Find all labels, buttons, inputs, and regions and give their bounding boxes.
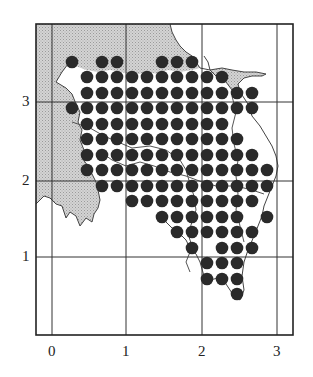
x-tick-label: 0	[48, 344, 56, 359]
occurrence-dot	[246, 195, 259, 208]
river-north	[204, 56, 210, 70]
occurrence-dot	[216, 180, 229, 193]
occurrence-dot	[231, 195, 244, 208]
occurrence-dot	[216, 164, 229, 177]
occurrence-dot	[111, 118, 124, 131]
occurrence-dot	[171, 118, 184, 131]
occurrence-dot	[171, 102, 184, 115]
occurrence-dot	[201, 87, 214, 100]
occurrence-dot	[231, 149, 244, 162]
occurrence-dot	[261, 211, 274, 224]
occurrence-dot	[186, 149, 199, 162]
occurrence-dot	[186, 180, 199, 193]
occurrence-dot	[126, 164, 139, 177]
occurrence-dot	[171, 87, 184, 100]
occurrence-dot	[186, 242, 199, 255]
occurrence-dot	[246, 226, 259, 239]
occurrence-dot	[171, 164, 184, 177]
occurrence-dot	[231, 180, 244, 193]
occurrence-dot	[201, 257, 214, 270]
occurrence-dot	[96, 133, 109, 146]
occurrence-dot	[126, 102, 139, 115]
occurrence-dot	[246, 87, 259, 100]
occurrence-dot	[201, 226, 214, 239]
occurrence-dot	[201, 133, 214, 146]
occurrence-dot	[81, 118, 94, 131]
occurrence-dot	[231, 226, 244, 239]
occurrence-dot	[231, 211, 244, 224]
occurrence-dot	[126, 133, 139, 146]
occurrence-dot	[231, 133, 244, 146]
x-tick-label: 1	[122, 344, 130, 359]
occurrence-dot	[186, 164, 199, 177]
occurrence-dot	[141, 118, 154, 131]
occurrence-dot	[216, 149, 229, 162]
occurrence-dot	[126, 87, 139, 100]
occurrence-dot	[171, 56, 184, 69]
occurrence-dot	[186, 102, 199, 115]
occurrence-dot	[231, 288, 244, 301]
occurrence-dot	[156, 164, 169, 177]
occurrence-dot	[141, 71, 154, 84]
occurrence-dot	[96, 118, 109, 131]
occurrence-dot	[156, 87, 169, 100]
occurrence-dot	[216, 118, 229, 131]
occurrence-dot	[81, 149, 94, 162]
occurrence-dot	[111, 133, 124, 146]
occurrence-dot	[96, 56, 109, 69]
occurrence-dot	[216, 226, 229, 239]
occurrence-dot	[201, 195, 214, 208]
occurrence-dot	[66, 56, 79, 69]
occurrence-dot	[231, 273, 244, 286]
occurrence-dot	[186, 71, 199, 84]
occurrence-dot	[111, 71, 124, 84]
occurrence-dot	[216, 102, 229, 115]
occurrence-dot	[156, 133, 169, 146]
occurrence-dot	[111, 102, 124, 115]
occurrence-dot	[201, 118, 214, 131]
occurrence-dot	[156, 102, 169, 115]
occurrence-dot	[156, 180, 169, 193]
occurrence-dots	[66, 56, 274, 301]
occurrence-dot	[171, 133, 184, 146]
occurrence-dot	[261, 180, 274, 193]
occurrence-dot	[201, 149, 214, 162]
occurrence-dot	[141, 102, 154, 115]
occurrence-dot	[171, 149, 184, 162]
occurrence-dot	[141, 149, 154, 162]
occurrence-dot	[246, 149, 259, 162]
occurrence-dot	[126, 180, 139, 193]
x-tick-label: 2	[198, 344, 206, 359]
occurrence-dot	[216, 87, 229, 100]
occurrence-dot	[66, 102, 79, 115]
occurrence-dot	[141, 180, 154, 193]
occurrence-dot	[201, 180, 214, 193]
occurrence-dot	[216, 211, 229, 224]
occurrence-dot	[171, 71, 184, 84]
occurrence-dot	[171, 211, 184, 224]
occurrence-dot	[216, 257, 229, 270]
y-tick-label: 3	[22, 94, 30, 109]
occurrence-dot	[186, 118, 199, 131]
occurrence-dot	[186, 87, 199, 100]
occurrence-dot	[156, 211, 169, 224]
occurrence-dot	[111, 87, 124, 100]
occurrence-dot	[111, 164, 124, 177]
y-tick-label: 1	[22, 249, 30, 264]
occurrence-dot	[126, 118, 139, 131]
occurrence-dot	[141, 164, 154, 177]
y-tick-label: 2	[22, 173, 30, 188]
occurrence-dot	[81, 164, 94, 177]
occurrence-dot	[216, 195, 229, 208]
occurrence-dot	[141, 195, 154, 208]
occurrence-dot	[171, 195, 184, 208]
occurrence-dot	[96, 102, 109, 115]
occurrence-dot	[201, 102, 214, 115]
occurrence-dot	[216, 242, 229, 255]
occurrence-dot	[171, 180, 184, 193]
occurrence-dot	[246, 180, 259, 193]
occurrence-dot	[201, 273, 214, 286]
occurrence-dot	[81, 87, 94, 100]
occurrence-dot	[111, 149, 124, 162]
occurrence-dot	[246, 164, 259, 177]
